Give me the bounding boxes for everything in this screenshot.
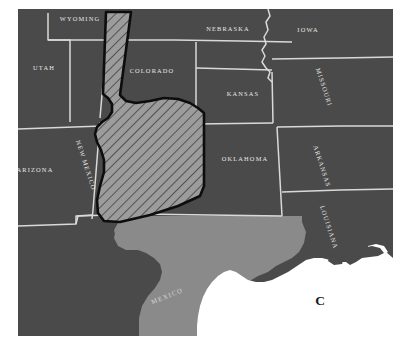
border-kansas-missouri	[272, 72, 273, 123]
panel-letter-label: C	[315, 293, 325, 308]
state-label-oklahoma: OKLAHOMA	[222, 155, 268, 162]
map-frame: WYOMING UTAH COLORADO NEBRASKA IOWA KANS…	[17, 9, 393, 336]
state-label-nebraska: NEBRASKA	[206, 25, 250, 32]
map-graphic: WYOMING UTAH COLORADO NEBRASKA IOWA KANS…	[0, 0, 408, 354]
state-label-colorado: COLORADO	[130, 67, 175, 74]
state-label-kansas: KANSAS	[227, 90, 259, 97]
figure-panel: WYOMING UTAH COLORADO NEBRASKA IOWA KANS…	[0, 0, 408, 354]
state-label-arizona: ARIZONA	[17, 166, 54, 173]
state-label-utah: UTAH	[33, 64, 55, 71]
state-label-wyoming: WYOMING	[60, 15, 100, 22]
state-label-iowa: IOWA	[297, 26, 318, 33]
